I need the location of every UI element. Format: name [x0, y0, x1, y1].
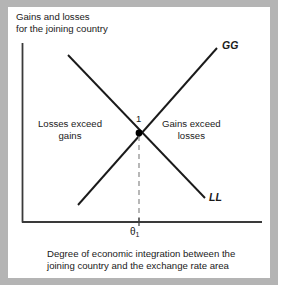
ll-curve-label: LL [209, 192, 222, 204]
gg-curve-label: GG [222, 40, 238, 52]
equilibrium-point-marker [136, 130, 143, 137]
x-axis-tick-label: θ1 [130, 226, 139, 239]
x-axis-caption: Degree of economic integration between t… [47, 248, 235, 272]
theta-subscript: 1 [136, 231, 140, 238]
region-label-losses-exceed-gains: Losses exceed gains [38, 118, 102, 142]
y-axis-label: Gains and losses for the joining country [16, 11, 108, 35]
theta-symbol: θ [130, 226, 136, 237]
region-label-gains-exceed-losses: Gains exceed losses [162, 118, 221, 142]
figure-container: Gains and losses for the joining country… [0, 0, 286, 292]
equilibrium-point-label: 1 [136, 113, 141, 125]
